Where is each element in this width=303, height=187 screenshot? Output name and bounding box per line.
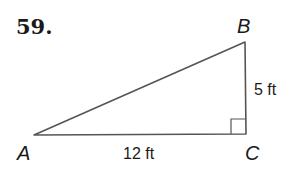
side-label-bc: 5 ft [254,81,277,98]
side-label-ac: 12 ft [123,145,155,162]
triangle-abc [34,42,246,135]
vertex-label-a: A [16,142,30,164]
vertex-label-b: B [237,15,250,37]
right-angle-marker [231,119,246,134]
vertex-label-c: C [245,142,260,164]
right-triangle-diagram: B A C 5 ft 12 ft [0,0,303,187]
